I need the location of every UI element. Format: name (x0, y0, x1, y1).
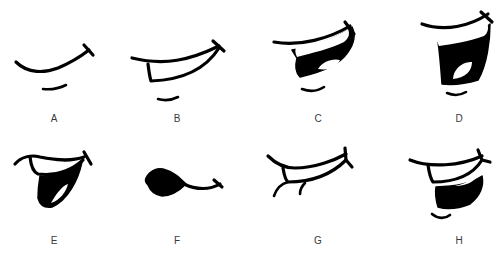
mouth-d-drawing (422, 12, 492, 95)
mouth-expression-sheet: A B C D E F G H (0, 0, 504, 257)
mouth-h-drawing (410, 150, 490, 218)
label-c: C (314, 114, 321, 124)
label-e: E (51, 236, 58, 246)
label-g: G (314, 236, 322, 246)
mouth-a-drawing (16, 45, 93, 89)
label-a: A (51, 114, 58, 124)
mouth-g-drawing (268, 148, 352, 196)
mouth-drawings (0, 0, 504, 257)
label-d: D (455, 114, 462, 124)
label-f: F (174, 236, 180, 246)
mouth-e-drawing (15, 152, 91, 207)
label-h: H (455, 236, 462, 246)
label-b: B (174, 114, 181, 124)
mouth-f-drawing (145, 169, 222, 196)
mouth-b-drawing (132, 41, 224, 100)
mouth-c-drawing (274, 22, 354, 91)
